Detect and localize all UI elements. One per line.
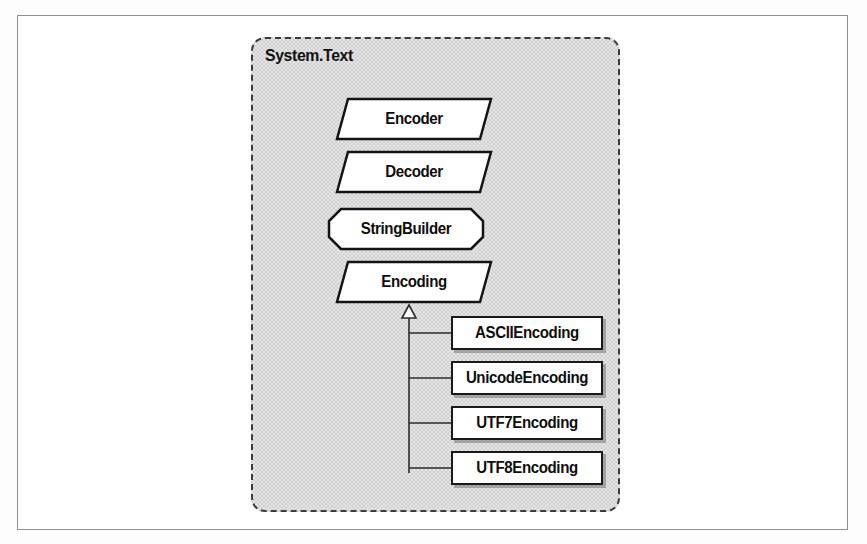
class-node-unicodeencoding[interactable]: UnicodeEncoding (451, 361, 603, 395)
class-node-decoder[interactable]: Decoder (337, 152, 491, 192)
parallelogram-shape (337, 262, 491, 302)
class-node-utf8encoding[interactable]: UTF8Encoding (451, 451, 603, 485)
class-node-label: ASCIIEncoding (457, 318, 596, 348)
package-system-text: System.Text Encoder (251, 37, 620, 512)
octagon-shape (329, 209, 483, 249)
class-node-asciiencoding[interactable]: ASCIIEncoding (451, 316, 603, 350)
class-node-label: UTF8Encoding (457, 453, 596, 483)
parallelogram-shape (337, 99, 491, 139)
class-node-encoding[interactable]: Encoding (337, 262, 491, 302)
class-node-stringbuilder[interactable]: StringBuilder (329, 209, 483, 249)
class-node-utf7encoding[interactable]: UTF7Encoding (451, 406, 603, 440)
class-node-encoder[interactable]: Encoder (337, 99, 491, 139)
parallelogram-shape (337, 152, 491, 192)
figure-frame: System.Text Encoder (17, 15, 848, 530)
figure-canvas: System.Text Encoder (0, 0, 867, 544)
inheritance-arrowhead (402, 305, 416, 318)
package-title: System.Text (265, 46, 353, 66)
class-node-label: UTF7Encoding (457, 408, 596, 438)
class-node-label: UnicodeEncoding (457, 363, 596, 393)
